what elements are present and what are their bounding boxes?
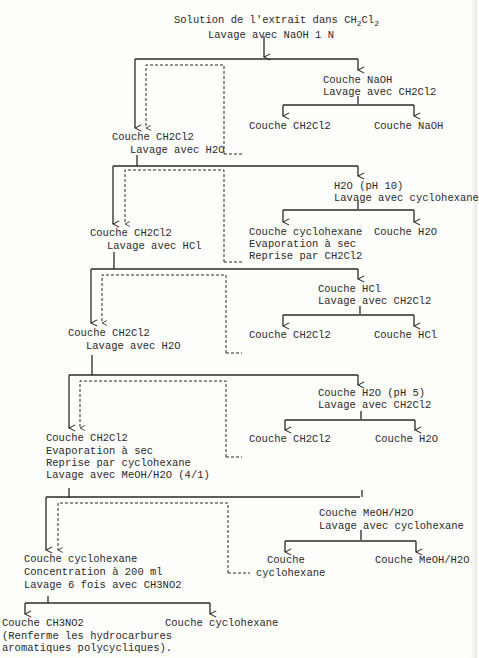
- stage2-right-a-layer: Couche cyclohexane: [249, 226, 362, 238]
- stage2-right-a-reprise: Reprise par CH2Cl2: [249, 250, 362, 262]
- stage5-left-layer: Couche cyclohexane: [24, 553, 137, 565]
- stage1-right-b-layer: Couche NaOH: [374, 120, 443, 132]
- stage4-left-evaporation: Evaporation à sec: [46, 445, 153, 457]
- stage4-left-layer: Couche CH2Cl2: [46, 432, 128, 444]
- stage4-right-layer: Couche H2O (pH 5): [318, 387, 425, 399]
- stage5-right-a-solvent: cyclohexane: [256, 567, 325, 579]
- stage2-right-wash: Lavage avec cyclohexane: [334, 192, 479, 204]
- stage3-right-layer: Couche HCl: [318, 283, 381, 295]
- final-left-layer: Couche CH3NO2: [2, 617, 84, 629]
- stage2-right-a-evaporation: Evaporation à sec: [249, 238, 356, 250]
- stage1-left-layer: Couche CH2Cl2: [112, 131, 194, 143]
- stage3-right-b-layer: Couche HCl: [374, 329, 437, 341]
- stage3-left-layer: Couche CH2Cl2: [68, 327, 150, 339]
- stage1-right-a-layer: Couche CH2Cl2: [249, 120, 331, 132]
- start-wash-step: Lavage avec NaOH 1 N: [208, 29, 334, 41]
- stage5-left-wash: Lavage 6 fois avec CH3NO2: [24, 579, 182, 591]
- stage3-right-wash: Lavage avec CH2Cl2: [318, 295, 431, 307]
- stage5-right-layer: Couche MeOH/H2O: [319, 507, 414, 519]
- stage5-right-a-layer: Couche: [267, 554, 305, 566]
- stage5-right-b-layer: Couche MeOH/H2O: [375, 554, 470, 566]
- final-left-note-1: (Renferme les hydrocarbures: [2, 630, 172, 642]
- final-left-note-2: aromatiques polycycliques).: [2, 642, 172, 654]
- stage1-right-wash: Lavage avec CH2Cl2: [323, 86, 436, 98]
- start-title: Solution de l'extrait dans CH2Cl2: [174, 14, 379, 26]
- stage1-left-wash: Lavage avec H2O: [130, 144, 225, 156]
- stage3-right-a-layer: Couche CH2Cl2: [249, 329, 331, 341]
- final-right-layer: Couche cyclohexane: [165, 617, 278, 629]
- stage2-left-wash: Lavage avec HCl: [107, 240, 202, 252]
- stage4-right-wash: Lavage avec CH2Cl2: [318, 399, 431, 411]
- stage4-left-reprise: Reprise par cyclohexane: [46, 457, 191, 469]
- stage2-right-layer: H2O (pH 10): [334, 180, 403, 192]
- stage4-right-b-layer: Couche H2O: [375, 433, 438, 445]
- stage4-right-a-layer: Couche CH2Cl2: [249, 433, 331, 445]
- stage5-right-wash: Lavage avec cyclohexane: [319, 520, 464, 532]
- stage4-left-wash: Lavage avec MeOH/H2O (4/1): [46, 469, 210, 481]
- stage3-left-wash: Lavage avec H2O: [86, 340, 181, 352]
- stage5-left-concentration: Concentration à 200 ml: [24, 566, 163, 578]
- stage2-right-b-layer: Couche H2O: [374, 226, 437, 238]
- stage1-right-layer: Couche NaOH: [323, 74, 392, 86]
- stage2-left-layer: Couche CH2Cl2: [90, 227, 172, 239]
